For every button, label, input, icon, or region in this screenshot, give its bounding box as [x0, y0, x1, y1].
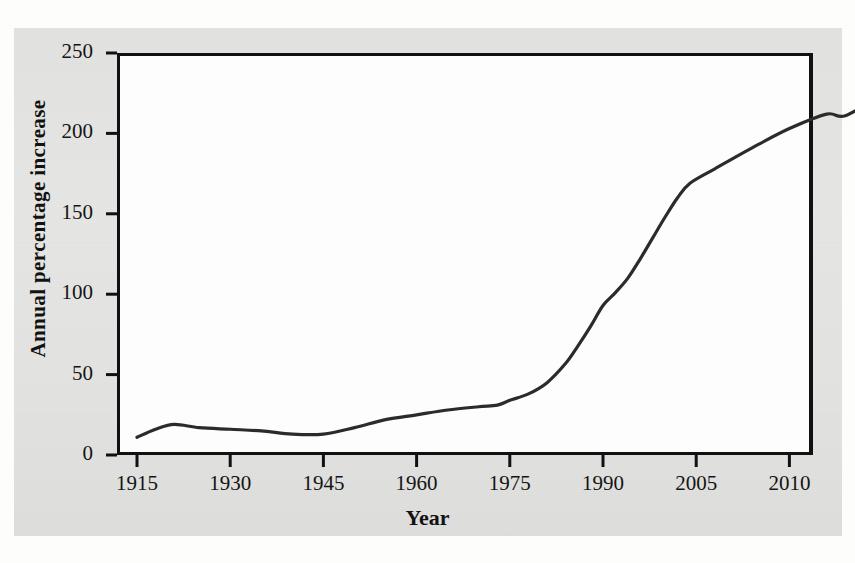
x-tick-label: 1915 — [92, 471, 182, 496]
x-tick-label: 1990 — [558, 471, 648, 496]
y-axis-title: Annual percentage increase — [26, 19, 51, 439]
x-tick-label: 1960 — [372, 471, 462, 496]
figure-container: 050100150200250 191519301945196019751990… — [0, 0, 855, 563]
x-tick-label: 1930 — [185, 471, 275, 496]
data-line-series-1 — [137, 95, 855, 438]
y-tick-label: 0 — [31, 441, 93, 466]
x-tick-label: 2005 — [651, 471, 741, 496]
x-tick-label: 2010 — [744, 471, 834, 496]
x-tick-label: 1975 — [465, 471, 555, 496]
y-axis-ticks — [106, 53, 117, 455]
x-axis-title: Year — [0, 505, 855, 531]
x-tick-label: 1945 — [278, 471, 368, 496]
x-axis-ticks — [137, 455, 789, 467]
